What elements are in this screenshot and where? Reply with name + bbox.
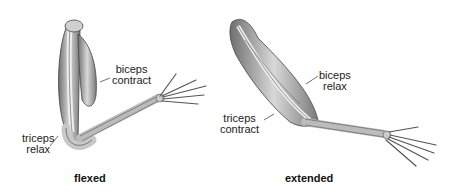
- extended-arm: [230, 19, 436, 166]
- label-triceps-contract: triceps contract: [220, 113, 259, 135]
- label-line: relax: [22, 144, 54, 155]
- caption-extended: extended: [285, 172, 333, 184]
- caption-flexed: flexed: [74, 172, 106, 184]
- label-line: relax: [319, 81, 351, 92]
- label-biceps-relax: biceps relax: [319, 70, 351, 92]
- arm-illustrations: [0, 0, 451, 194]
- label-triceps-relax: triceps relax: [22, 133, 54, 155]
- label-line: contract: [220, 124, 259, 135]
- label-biceps-contract: biceps contract: [112, 64, 151, 86]
- label-line: contract: [112, 75, 151, 86]
- arm-muscle-diagram: biceps contract triceps relax flexed bic…: [0, 0, 451, 194]
